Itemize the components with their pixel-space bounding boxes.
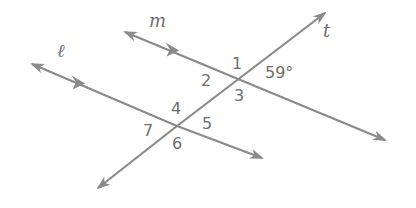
line-t-back: [98, 126, 177, 188]
angle-label-2: 2: [201, 73, 211, 89]
angle-label-5: 5: [202, 116, 212, 132]
diagram-lines: [0, 0, 416, 208]
angle-label-3: 3: [234, 88, 244, 104]
angle-label-6: 6: [172, 136, 182, 152]
angle-label-1: 1: [232, 56, 242, 72]
label-line-t: t: [323, 22, 330, 40]
label-line-l: ℓ: [57, 42, 65, 60]
diagram-canvas: m ℓ t 1 2 3 59° 4 5 6 7: [0, 0, 416, 208]
angle-label-4: 4: [171, 101, 181, 117]
angle-label-7: 7: [143, 123, 153, 139]
line-t: [177, 13, 325, 126]
label-line-m: m: [149, 12, 166, 30]
line-l-back: [32, 64, 177, 126]
line-l: [177, 126, 262, 158]
given-angle-label: 59°: [265, 65, 293, 81]
line-m-back: [125, 32, 238, 79]
line-m: [238, 79, 385, 140]
